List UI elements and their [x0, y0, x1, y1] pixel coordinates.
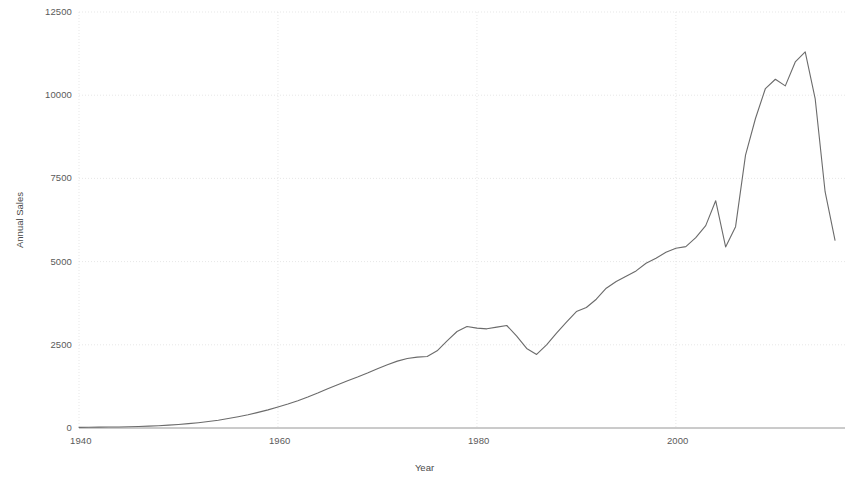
x-tick-label: 2000 — [667, 435, 689, 446]
y-tick-label: 12500 — [45, 6, 72, 17]
y-tick-label: 10000 — [45, 89, 72, 100]
x-tick-label: 1980 — [468, 435, 490, 446]
y-tick-label: 2500 — [50, 339, 72, 350]
series-line-0 — [79, 52, 835, 427]
x-tick-label: 1940 — [70, 435, 92, 446]
x-axis-title: Year — [0, 462, 849, 473]
chart-container: 02500500075001000012500 1940196019802000… — [0, 0, 849, 477]
y-tick-label: 7500 — [50, 172, 72, 183]
line-chart-plot — [0, 0, 849, 477]
y-axis-title: Annual Sales — [14, 192, 25, 248]
grid-lines — [79, 12, 845, 428]
data-series-group — [79, 52, 835, 427]
x-tick-label: 1960 — [269, 435, 291, 446]
y-tick-label: 5000 — [50, 256, 72, 267]
y-tick-label: 0 — [67, 422, 72, 433]
